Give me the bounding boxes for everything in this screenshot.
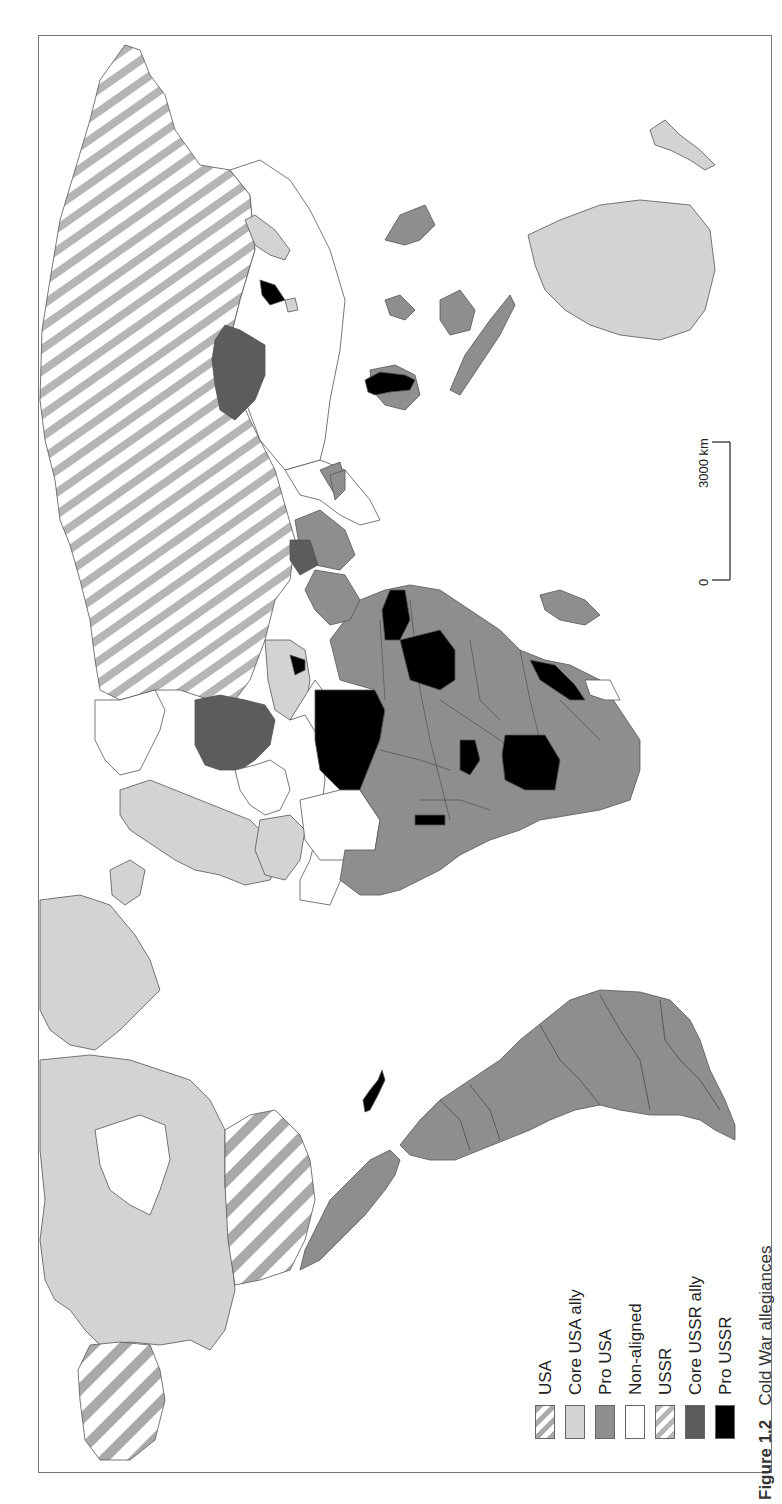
legend-label-non-aligned: Non-aligned [626, 1303, 646, 1395]
scale-label-end: 3000 km [696, 438, 711, 488]
region-south-america [400, 990, 735, 1160]
region-philippines [385, 205, 435, 245]
legend-swatch-non-aligned [625, 1405, 645, 1439]
legend-swatch-ussr [655, 1405, 675, 1439]
region-mexico [300, 1150, 400, 1270]
region-scandinavia [95, 690, 165, 775]
legend-swatch-core-ussr-ally [685, 1405, 705, 1439]
legend-swatch-pro-usa [595, 1405, 615, 1439]
region-cuba [363, 1070, 385, 1112]
legend-label-ussr: USSR [656, 1348, 676, 1395]
legend-label-core-usa-ally: Core USA ally [566, 1289, 586, 1395]
region-usa [225, 1110, 315, 1285]
caption-title: Cold War allegiances [756, 1246, 775, 1406]
region-new-zealand [650, 120, 715, 170]
region-benin [415, 815, 445, 825]
caption-number: Figure 1.2 [756, 1420, 775, 1500]
scale-bar [712, 442, 730, 580]
region-balkans [235, 760, 290, 815]
legend-label-pro-ussr: Pro USSR [716, 1317, 736, 1395]
legend-label-pro-usa: Pro USA [596, 1329, 616, 1395]
legend-label-core-ussr-ally: Core USSR ally [686, 1276, 706, 1395]
region-australia [528, 200, 715, 340]
world-map [0, 0, 782, 1504]
scale-label-start: 0 [696, 579, 711, 586]
region-uk [110, 860, 145, 905]
region-eastern-bloc [195, 695, 275, 770]
region-sulawesi [385, 295, 415, 320]
region-alaska [78, 1342, 165, 1460]
legend-label-usa: USA [536, 1360, 556, 1395]
region-madagascar [540, 590, 600, 625]
legend-swatch-pro-ussr [715, 1405, 735, 1439]
region-greenland [40, 895, 160, 1050]
region-arabia [305, 570, 360, 625]
legend-swatch-core-usa-ally [565, 1405, 585, 1439]
figure-caption: Figure 1.2 Cold War allegiances [756, 1246, 776, 1500]
legend-swatch-usa [535, 1405, 555, 1439]
region-borneo [440, 290, 475, 335]
